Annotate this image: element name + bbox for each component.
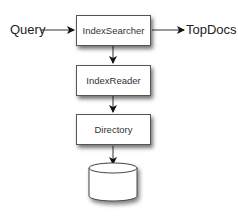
directory-node: Directory bbox=[76, 114, 151, 145]
storage-cylinder-icon bbox=[89, 163, 137, 201]
index-searcher-label: IndexSearcher bbox=[83, 25, 145, 36]
index-reader-node: IndexReader bbox=[76, 65, 151, 96]
index-searcher-node: IndexSearcher bbox=[76, 15, 151, 46]
query-label: Query bbox=[10, 22, 45, 37]
diagram-canvas: Query TopDocs IndexSearcher IndexReader … bbox=[0, 0, 238, 218]
directory-label: Directory bbox=[94, 124, 132, 135]
topdocs-label: TopDocs bbox=[186, 22, 237, 37]
index-reader-label: IndexReader bbox=[86, 75, 140, 86]
